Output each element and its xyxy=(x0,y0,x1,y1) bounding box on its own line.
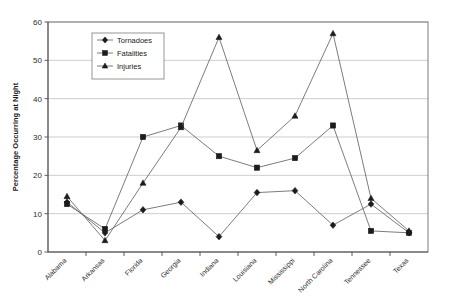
data-point-marker xyxy=(368,201,374,208)
legend: TornadoesFatalitiesInjuries xyxy=(92,33,164,79)
line-chart: 0102030405060AlabamaArkansasFloridaGeorg… xyxy=(0,0,450,307)
y-axis-tick-label: 30 xyxy=(33,133,42,142)
data-point-marker xyxy=(254,165,259,170)
data-point-marker xyxy=(368,228,373,233)
data-point-marker xyxy=(292,113,298,118)
chart-canvas: 0102030405060AlabamaArkansasFloridaGeorg… xyxy=(0,0,450,307)
data-point-marker xyxy=(330,30,336,35)
y-axis-tick-label: 40 xyxy=(33,95,42,104)
x-axis-category-label: Tennessee xyxy=(343,257,372,286)
x-axis-category-label: Indiana xyxy=(199,257,220,278)
data-point-marker xyxy=(292,155,297,160)
x-axis-category-label: North Carolina xyxy=(297,257,334,294)
legend-label: Tornadoes xyxy=(117,36,152,45)
data-point-marker xyxy=(140,207,146,214)
y-axis-title: Percentage Occurring at Night xyxy=(11,82,20,191)
x-axis-category-label: Louisiana xyxy=(232,257,258,283)
y-axis-tick-label: 10 xyxy=(33,210,42,219)
y-axis-tick-label: 50 xyxy=(33,56,42,65)
y-axis-tick-label: 0 xyxy=(38,248,43,257)
data-point-marker xyxy=(140,180,146,185)
data-point-marker xyxy=(368,195,374,200)
data-point-marker xyxy=(140,134,145,139)
legend-marker-square xyxy=(103,51,108,56)
x-axis-category-label: Texas xyxy=(392,256,410,274)
data-point-marker xyxy=(330,123,335,128)
data-point-marker xyxy=(216,154,221,159)
x-axis-category-label: Georgia xyxy=(159,257,182,280)
x-axis-category-label: Mississippi xyxy=(267,256,297,286)
data-point-marker xyxy=(216,34,222,39)
y-axis-tick-label: 20 xyxy=(33,171,42,180)
legend-label: Fatalities xyxy=(117,49,147,58)
data-point-marker xyxy=(102,226,107,231)
series-fatalities xyxy=(64,123,411,236)
x-axis-category-label: Arkansas xyxy=(80,256,106,282)
data-point-marker xyxy=(64,201,69,206)
legend-label: Injuries xyxy=(117,62,141,71)
y-axis-tick-label: 60 xyxy=(33,18,42,27)
data-point-marker xyxy=(64,193,70,198)
x-axis-category-label: Florida xyxy=(124,257,144,277)
x-axis-category-label: Alabama xyxy=(43,257,68,282)
